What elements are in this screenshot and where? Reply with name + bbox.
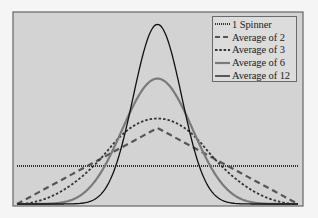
legend-item-average-of-6: Average of 6 xyxy=(215,56,296,69)
legend-item-average-of-12: Average of 12 xyxy=(215,69,296,82)
legend-swatch-dotted xyxy=(215,21,230,27)
legend-swatch-dashed xyxy=(215,34,230,40)
legend-swatch-solid-gray xyxy=(215,60,230,66)
legend-swatch-solid-black xyxy=(215,73,230,79)
legend-label: Average of 3 xyxy=(232,44,285,55)
legend-label: 1 Spinner xyxy=(232,19,272,30)
legend-item-average-of-3: Average of 3 xyxy=(215,44,296,57)
legend: 1 Spinner Average of 2 Average of 3 Aver… xyxy=(212,16,297,82)
legend-label: Average of 12 xyxy=(232,70,290,81)
legend-item-average-of-2: Average of 2 xyxy=(215,31,296,44)
legend-swatch-short-dashed xyxy=(215,47,230,53)
legend-label: Average of 6 xyxy=(232,57,285,68)
legend-label: Average of 2 xyxy=(232,32,285,43)
legend-item-1-spinner: 1 Spinner xyxy=(215,18,296,31)
